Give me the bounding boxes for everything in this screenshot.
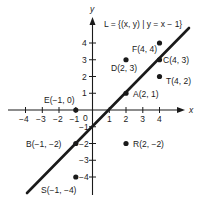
- set-definition-title: L = {(x, y) | y = x − 1}: [104, 19, 182, 29]
- point-label: T(4, 2): [166, 76, 191, 86]
- point-marker-icon: [123, 91, 128, 96]
- point-marker-icon: [73, 141, 78, 146]
- x-tick-label: −2: [53, 114, 63, 124]
- point-marker-icon: [123, 57, 128, 62]
- y-axis-label: y: [89, 4, 95, 14]
- point-label: S(−1, −4): [41, 185, 77, 195]
- y-axis-arrow-icon: [90, 17, 96, 25]
- point-marker-icon: [73, 174, 78, 179]
- y-tick-label: 2: [82, 72, 87, 82]
- point-F: F(4, 4): [132, 40, 162, 54]
- x-axis-arrow-icon: [177, 107, 185, 113]
- point-label: D(2, 3): [111, 63, 137, 73]
- x-axis: x −4 −3 −2 −1 0 1 2 3 4: [8, 105, 194, 124]
- y-tick-label: −4: [79, 172, 89, 182]
- y-tick-label: 4: [82, 38, 87, 48]
- x-tick-label: 4: [157, 114, 162, 124]
- point-R: R(2, −2): [123, 139, 164, 149]
- x-tick-label: 1: [107, 114, 112, 124]
- x-tick-label: −4: [19, 114, 29, 124]
- point-marker-icon: [157, 74, 162, 79]
- point-T: T(4, 2): [157, 74, 191, 86]
- x-tick-label: −3: [36, 114, 46, 124]
- y-tick-label: 1: [82, 88, 87, 98]
- point-label: B(−1, −2): [26, 139, 62, 149]
- point-label: A(2, 1): [133, 89, 159, 99]
- x-tick-label: −1: [70, 114, 80, 124]
- y-tick-label: −3: [79, 155, 89, 165]
- point-label: R(2, −2): [133, 139, 164, 149]
- y-axis: y 4 3 2 1 −1 −2 −3 −4: [79, 4, 96, 195]
- point-label: F(4, 4): [132, 44, 157, 54]
- x-axis-label: x: [188, 105, 194, 115]
- x-tick-label: 2: [124, 114, 129, 124]
- point-marker-icon: [157, 40, 162, 45]
- point-D: D(2, 3): [111, 57, 137, 73]
- point-S: S(−1, −4): [41, 174, 78, 195]
- point-label: C(4, 3): [163, 55, 189, 65]
- coordinate-plane: x −4 −3 −2 −1 0 1 2 3 4 y: [0, 0, 213, 210]
- point-marker-icon: [157, 57, 162, 62]
- point-label: E(−1, 0): [44, 95, 75, 105]
- x-tick-label: 3: [140, 114, 145, 124]
- y-tick-label: 3: [82, 55, 87, 65]
- point-marker-icon: [73, 107, 78, 112]
- point-marker-icon: [123, 141, 128, 146]
